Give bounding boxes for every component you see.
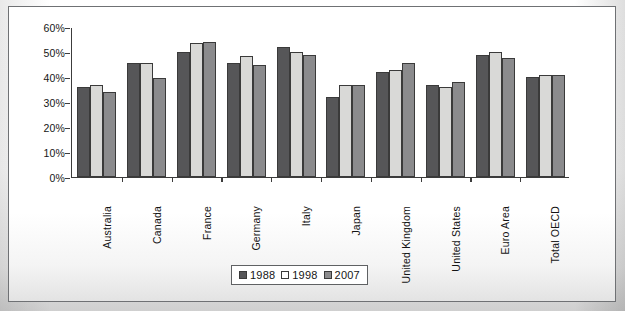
x-axis-tick-mark	[271, 177, 272, 182]
y-axis-tick-label: 20%	[19, 122, 65, 134]
scanned-page: 0%10%20%30%40%50%60% AustraliaCanadaFran…	[0, 0, 625, 311]
legend-swatch-icon	[324, 271, 332, 279]
x-axis-tick-mark	[371, 177, 372, 182]
y-axis-tick-label: 0%	[19, 172, 65, 184]
x-axis-tick-mark	[321, 177, 322, 182]
x-axis-tick-mark	[122, 177, 123, 182]
x-axis-category-label: Canada	[151, 206, 163, 244]
y-axis-tick-label: 40%	[19, 72, 65, 84]
y-axis-tick-label: 50%	[19, 47, 65, 59]
legend-label: 1988	[250, 269, 275, 281]
y-axis-tick-mark	[65, 153, 70, 154]
bar-chart: 0%10%20%30%40%50%60% AustraliaCanadaFran…	[9, 7, 617, 303]
legend-label: 2007	[335, 269, 360, 281]
x-axis-category-label: Australia	[101, 206, 113, 249]
y-axis-tick-mark	[65, 178, 70, 179]
legend-swatch-icon	[239, 271, 247, 279]
y-axis-tick-mark	[65, 128, 70, 129]
x-axis-tick-mark	[172, 177, 173, 182]
x-axis-category-label: Italy	[300, 206, 312, 226]
x-axis-category-label: Total OECD	[549, 206, 561, 263]
y-axis-tick-mark	[65, 28, 70, 29]
x-axis-tick-mark	[421, 177, 422, 182]
y-axis-tick-mark	[65, 78, 70, 79]
x-axis-tick-mark	[470, 177, 471, 182]
y-axis-tick-label: 10%	[19, 147, 65, 159]
x-axis: AustraliaCanadaFranceGermanyItalyJapanUn…	[71, 28, 569, 148]
x-axis-category-label: United Kingdom	[400, 206, 412, 284]
x-axis-category-label: Euro Area	[499, 206, 511, 255]
legend: 198819982007	[231, 265, 368, 285]
y-axis-tick-label: 60%	[19, 22, 65, 34]
legend-swatch-icon	[281, 271, 289, 279]
x-axis-category-label: France	[201, 206, 213, 240]
x-axis-tick-mark	[520, 177, 521, 182]
x-axis-category-label: Germany	[250, 206, 262, 251]
legend-item: 2007	[324, 269, 360, 281]
legend-label: 1998	[292, 269, 317, 281]
x-axis-category-label: Japan	[350, 206, 362, 236]
legend-item: 1998	[281, 269, 317, 281]
y-axis-tick-mark	[65, 103, 70, 104]
x-axis-category-label: United States	[450, 206, 462, 272]
legend-item: 1988	[239, 269, 275, 281]
y-axis-tick-label: 30%	[19, 97, 65, 109]
y-axis-tick-mark	[65, 53, 70, 54]
figure-frame: 0%10%20%30%40%50%60% AustraliaCanadaFran…	[8, 6, 616, 302]
x-axis-tick-mark	[221, 177, 222, 182]
y-axis: 0%10%20%30%40%50%60%	[17, 28, 65, 178]
